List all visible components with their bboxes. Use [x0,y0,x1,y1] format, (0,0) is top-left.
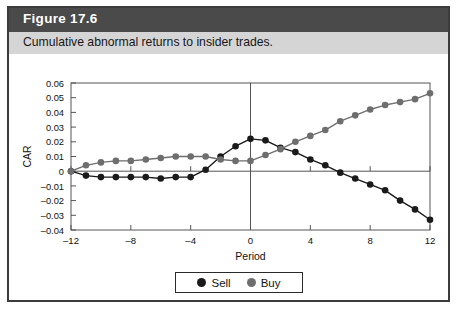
chart-legend: Sell Buy [175,272,303,293]
data-point-sell [292,149,299,156]
data-point-buy [382,102,389,109]
data-point-sell [382,187,389,194]
legend-label-sell: Sell [211,277,230,289]
x-axis-tick-label: –4 [185,235,196,246]
y-axis-tick-label: –0.03 [41,211,64,221]
data-point-sell [128,174,135,181]
x-axis-tick-label: 8 [367,235,372,246]
data-point-sell [307,156,314,163]
data-point-sell [172,174,179,181]
figure-caption-text: Cumulative abnormal returns to insider t… [23,35,273,49]
data-point-sell [322,162,329,169]
cumulative-abnormal-returns-chart: –0.04–0.03–0.02–0.0100.010.020.030.040.0… [9,54,452,302]
data-point-buy [262,152,269,159]
legend-item-sell: Sell [197,277,230,289]
legend-marker-buy [247,278,256,287]
data-point-sell [352,175,359,182]
data-point-buy [427,90,434,97]
figure-number-label: Figure 17.6 [23,11,98,26]
figure-container: Figure 17.6 Cumulative abnormal returns … [7,6,450,302]
data-point-buy [128,158,135,165]
x-axis-tick-label: –8 [125,235,136,246]
data-point-sell [187,174,194,181]
data-point-buy [412,96,419,103]
data-point-buy [217,156,224,163]
data-point-buy [307,133,314,140]
y-axis-tick-label: 0.01 [46,152,64,162]
data-point-buy [68,168,75,175]
data-point-buy [98,159,105,166]
x-axis-tick-label: 4 [308,235,314,246]
data-point-buy [202,153,209,160]
data-point-sell [262,137,269,144]
data-point-buy [367,106,374,113]
data-point-sell [337,169,344,176]
legend-item-buy: Buy [247,277,281,289]
data-point-sell [412,206,419,213]
figure-caption-bar: Cumulative abnormal returns to insider t… [9,32,448,54]
data-point-buy [322,127,329,134]
y-axis-tick-label: 0.03 [46,123,64,133]
data-point-buy [247,158,254,165]
x-axis-title: Period [235,250,266,262]
x-axis-tick-label: 0 [248,235,253,246]
data-point-sell [83,172,90,179]
data-point-buy [113,158,120,165]
data-point-buy [142,156,149,163]
data-point-sell [427,216,434,223]
data-point-buy [277,146,284,153]
legend-marker-sell [197,278,206,287]
y-axis-tick-label: 0.06 [46,79,64,89]
figure-title-bar: Figure 17.6 [9,8,448,32]
x-axis-tick-label: –12 [63,235,79,246]
y-axis-tick-label: –0.04 [41,226,64,236]
y-axis-tick-label: 0 [59,167,64,177]
data-point-sell [113,174,120,181]
data-point-sell [202,166,209,173]
data-point-sell [98,174,105,181]
y-axis-title: CAR [21,145,33,168]
data-point-sell [247,136,254,143]
legend-label-buy: Buy [261,277,281,289]
y-axis-tick-label: –0.02 [41,196,64,206]
data-point-sell [232,143,239,150]
data-point-buy [337,118,344,125]
data-point-buy [187,153,194,160]
data-point-buy [232,158,239,165]
data-point-sell [397,197,404,204]
chart-plot-region: –0.04–0.03–0.02–0.0100.010.020.030.040.0… [9,54,448,302]
x-axis-tick-label: 12 [425,235,436,246]
data-point-buy [352,112,359,119]
y-axis-tick-label: 0.05 [46,93,64,103]
data-point-buy [157,155,164,162]
y-axis-tick-label: 0.04 [46,108,64,118]
data-point-buy [292,139,299,146]
data-point-buy [172,153,179,160]
data-point-sell [142,174,149,181]
y-axis-tick-label: –0.01 [41,182,64,192]
data-point-buy [83,162,90,169]
y-axis-tick-label: 0.02 [46,137,64,147]
data-point-sell [157,175,164,182]
data-point-sell [367,181,374,188]
data-point-buy [397,99,404,106]
